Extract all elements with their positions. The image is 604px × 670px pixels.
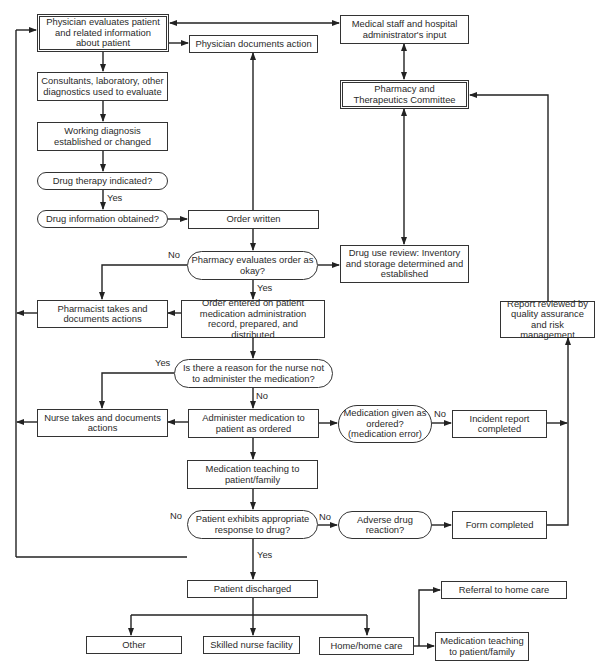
node-pharmacist-takes: Pharmacist takes and documents actions xyxy=(37,300,168,328)
node-administer-medication: Administer medication to patient as orde… xyxy=(188,409,319,438)
node-physician-evaluates: Physician evaluates patient and related … xyxy=(37,14,169,52)
label-no-pharmacy: No xyxy=(168,250,180,260)
node-incident-report: Incident report completed xyxy=(452,410,547,438)
node-nurse-takes: Nurse takes and documents actions xyxy=(37,409,168,437)
node-skilled-nurse-facility: Skilled nurse facility xyxy=(203,636,300,654)
node-pt-committee: Pharmacy and Therapeutics Committee xyxy=(340,80,469,109)
node-appropriate-response: Patient exhibits appropriate response to… xyxy=(187,510,318,539)
node-medical-staff-input: Medical staff and hospital administrator… xyxy=(340,15,469,44)
node-pharmacy-evaluates: Pharmacy evaluates order as okay? xyxy=(187,251,318,280)
label-no-response-left: No xyxy=(170,511,182,521)
label-no-reason: No xyxy=(256,391,268,401)
node-medication-given: Medication given as ordered? (medication… xyxy=(338,405,432,443)
node-drug-info-obtained: Drug information obtained? xyxy=(37,210,168,228)
node-medication-teaching-home: Medication teaching to patient/family xyxy=(435,632,529,661)
node-form-completed: Form completed xyxy=(452,511,547,539)
node-patient-discharged: Patient discharged xyxy=(187,580,318,598)
label-yes-pharmacy: Yes xyxy=(257,283,272,293)
label-no-response-right: No xyxy=(319,512,331,522)
label-yes-response: Yes xyxy=(257,550,272,560)
node-adverse-reaction: Adverse drug reaction? xyxy=(338,511,432,539)
node-order-entered: Order entered on patient medication admi… xyxy=(181,300,325,338)
label-no-medication-given: No xyxy=(434,409,446,419)
node-consultants: Consultants, laboratory, other diagnosti… xyxy=(37,72,168,101)
node-drug-therapy-indicated: Drug therapy indicated? xyxy=(37,172,168,190)
node-report-reviewed: Report reviewed by quality assurance and… xyxy=(500,301,595,338)
node-home-care: Home/home care xyxy=(319,637,414,655)
node-physician-documents: Physician documents action xyxy=(189,35,318,53)
node-other: Other xyxy=(86,636,182,654)
node-reason-not-administer: Is there a reason for the nurse not to a… xyxy=(174,359,333,388)
node-medication-teaching: Medication teaching to patient/family xyxy=(187,460,318,489)
node-drug-use-review: Drug use review: Inventory and storage d… xyxy=(340,245,469,283)
node-working-diagnosis: Working diagnosis established or changed xyxy=(37,122,168,151)
label-yes-reason: Yes xyxy=(155,358,170,368)
label-yes-drug-therapy: Yes xyxy=(107,193,122,203)
node-order-written: Order written xyxy=(188,210,319,229)
node-referral-home-care: Referral to home care xyxy=(441,581,567,599)
